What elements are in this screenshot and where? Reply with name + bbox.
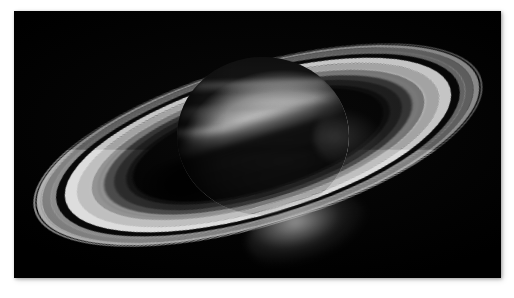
page-root [0, 0, 514, 298]
caption-area [14, 282, 501, 294]
saturn-photograph [14, 11, 501, 278]
